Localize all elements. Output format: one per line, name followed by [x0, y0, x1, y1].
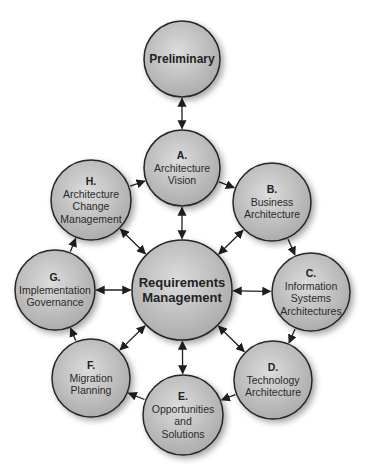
edge-g-h-arrow [70, 239, 75, 252]
node-circle-c [272, 253, 350, 331]
node-circle-a [144, 130, 220, 206]
edge-d-e-arrow [222, 395, 236, 400]
edge-e-f-arrow [129, 393, 145, 399]
edge-rm-c-bidirectional-arrow [233, 291, 270, 292]
edge-f-g-arrow [71, 328, 76, 340]
node-circle-b [233, 163, 311, 241]
node-circle-h [51, 160, 131, 240]
edge-b-c-arrow [288, 239, 295, 255]
edge-rm-f-bidirectional-arrow [120, 326, 145, 350]
node-circle-preliminary [144, 21, 220, 97]
edge-c-d-arrow [289, 329, 295, 343]
node-circle-rm [132, 240, 232, 340]
node-circle-d [234, 341, 312, 419]
edge-rm-b-bidirectional-arrow [219, 230, 243, 254]
adm-cycle-diagram: PreliminaryA.ArchitectureVisionB.Busines… [0, 0, 369, 471]
edge-a-b-arrow [219, 182, 234, 188]
node-circle-f [52, 339, 130, 417]
node-circle-e [143, 375, 223, 455]
edge-rm-h-bidirectional-arrow [121, 229, 146, 254]
node-circle-g [15, 250, 95, 330]
edge-rm-d-bidirectional-arrow [219, 326, 245, 351]
diagram-canvas [0, 0, 369, 471]
edge-h-a-arrow [130, 181, 145, 186]
